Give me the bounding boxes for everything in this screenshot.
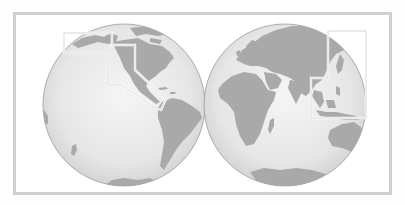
map-canvas: two-hemisphere orthographic <box>0 0 405 205</box>
antarctica-west-landmass <box>104 178 160 192</box>
western-hemisphere-globe <box>43 24 205 192</box>
eastern-hemisphere-globe <box>204 24 366 186</box>
world-map <box>0 0 405 205</box>
